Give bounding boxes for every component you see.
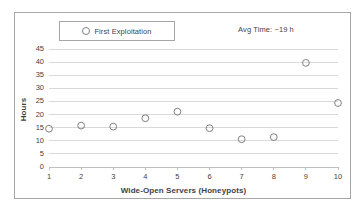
chart-container: 051015202530354045 12345678910 First Exp…: [14, 12, 351, 199]
data-point[interactable]: [46, 125, 53, 132]
data-point[interactable]: [335, 100, 342, 107]
open-circle-marker-icon: [82, 27, 90, 35]
avg-time-annotation: Avg Time: ~19 h: [201, 25, 331, 34]
data-point[interactable]: [142, 115, 149, 122]
y-axis-title: Hours: [19, 85, 28, 135]
x-tick-label: 3: [102, 173, 124, 181]
y-tick-label: 10: [22, 137, 44, 145]
gridlines: [49, 49, 338, 167]
x-tick-label: 4: [134, 173, 156, 181]
data-point[interactable]: [238, 136, 245, 143]
y-tick-label: 40: [22, 58, 44, 66]
y-tick-label: 35: [22, 71, 44, 79]
scatter-plot: [15, 13, 352, 200]
x-tick-label: 8: [263, 173, 285, 181]
data-point[interactable]: [110, 123, 117, 130]
data-point[interactable]: [174, 108, 181, 115]
y-tick-label: 0: [22, 163, 44, 171]
y-tick-label: 5: [22, 150, 44, 158]
data-point[interactable]: [270, 134, 277, 141]
x-tick-label: 5: [166, 173, 188, 181]
chart-legend[interactable]: First Exploitation: [59, 21, 175, 41]
x-tick-label: 6: [199, 173, 221, 181]
data-point[interactable]: [302, 59, 309, 66]
data-point[interactable]: [206, 125, 213, 132]
x-tick-label: 2: [70, 173, 92, 181]
x-axis-title: Wide-Open Servers (Honeypots): [15, 186, 352, 195]
x-tick-label: 1: [38, 173, 60, 181]
x-tick-label: 10: [327, 173, 349, 181]
x-tick-label: 7: [231, 173, 253, 181]
y-tick-label: 45: [22, 45, 44, 53]
x-tick-label: 9: [295, 173, 317, 181]
legend-label: First Exploitation: [94, 27, 151, 36]
